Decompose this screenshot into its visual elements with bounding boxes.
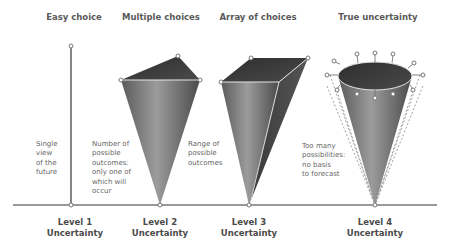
uncertainty-diagram bbox=[0, 0, 454, 252]
label-level3: Level 3 Uncertainty bbox=[221, 217, 277, 239]
title-easy-choice: Easy choice bbox=[46, 12, 102, 22]
level3-cone-shape bbox=[219, 56, 310, 207]
desc-level2: Number of possible outcomes: only one of… bbox=[92, 140, 131, 196]
desc-level4: Too many possibilities: no basis to fore… bbox=[302, 142, 345, 180]
desc-level3: Range of possible outcomes bbox=[188, 140, 222, 168]
label-level4: Level 4 Uncertainty bbox=[347, 217, 403, 239]
label-level2: Level 2 Uncertainty bbox=[132, 217, 188, 239]
title-true-uncertainty: True uncertainty bbox=[338, 12, 417, 22]
desc-level1: Single view of the future bbox=[36, 140, 58, 178]
level1-line-shape bbox=[69, 44, 73, 207]
label-level1: Level 1 Uncertainty bbox=[47, 217, 103, 239]
level2-cone-shape bbox=[119, 54, 202, 207]
level4-cone-shape bbox=[325, 51, 425, 207]
title-array-of-choices: Array of choices bbox=[219, 12, 296, 22]
title-multiple-choices: Multiple choices bbox=[122, 12, 200, 22]
